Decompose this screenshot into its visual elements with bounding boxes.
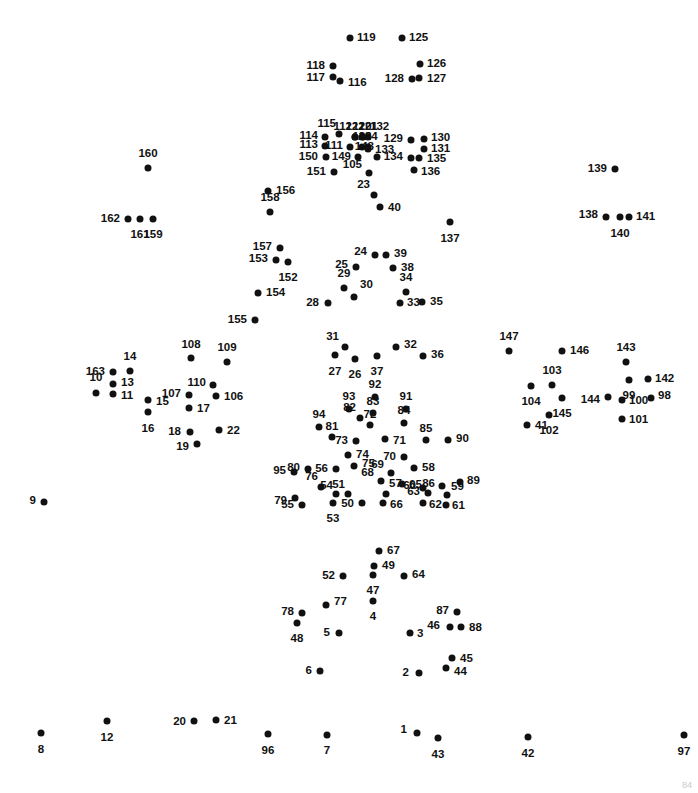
dot-marker-49 — [371, 563, 378, 570]
dot-marker-35 — [419, 299, 426, 306]
dot-marker-63 — [425, 490, 432, 497]
dot-label-117: 117 — [306, 72, 325, 84]
dot-marker-138 — [603, 214, 610, 221]
dot-marker-140 — [617, 214, 624, 221]
dot-marker-130 — [421, 136, 428, 143]
dot-label-102: 102 — [539, 425, 558, 437]
dot-marker-81 — [329, 434, 336, 441]
dot-marker-142 — [645, 376, 652, 383]
dot-label-116: 116 — [348, 77, 367, 89]
dot-marker-80 — [305, 466, 312, 473]
dot-label-2: 2 — [403, 667, 409, 679]
dot-marker-4 — [370, 598, 377, 605]
dot-marker-69 — [388, 470, 395, 477]
dot-marker-144 — [605, 394, 612, 401]
dot-marker-18 — [187, 429, 194, 436]
dot-label-89: 89 — [467, 475, 480, 487]
dot-label-16: 16 — [142, 423, 155, 435]
dot-label-138: 138 — [579, 209, 598, 221]
dot-marker-161 — [137, 216, 144, 223]
dot-label-96: 96 — [262, 745, 275, 757]
dot-marker-51 — [345, 491, 352, 498]
dot-marker-68 — [378, 478, 385, 485]
dot-marker-154 — [255, 290, 262, 297]
dot-marker-7 — [324, 732, 331, 739]
dot-label-128: 128 — [385, 73, 404, 85]
dot-label-141: 141 — [636, 211, 655, 223]
dot-label-53: 53 — [327, 513, 340, 525]
dot-marker-90 — [445, 437, 452, 444]
dot-marker-104 — [528, 383, 535, 390]
dot-marker-45 — [449, 655, 456, 662]
dot-label-71: 71 — [393, 435, 406, 447]
dot-marker-126 — [417, 61, 424, 68]
dot-marker-147 — [506, 348, 513, 355]
dot-marker-94 — [316, 424, 323, 431]
dot-marker-20 — [191, 718, 198, 725]
dot-label-66: 66 — [390, 499, 403, 511]
dot-label-73: 73 — [335, 435, 348, 447]
dot-label-58: 58 — [422, 462, 435, 474]
dot-marker-136 — [411, 167, 418, 174]
dot-label-75: 75 — [362, 458, 375, 470]
dot-marker-91 — [403, 406, 410, 413]
dot-marker-159 — [150, 216, 157, 223]
dot-label-134: 134 — [384, 151, 403, 163]
dot-label-61: 61 — [452, 500, 465, 512]
dot-marker-74 — [345, 452, 352, 459]
dot-label-6: 6 — [306, 665, 312, 677]
dot-marker-103 — [549, 382, 556, 389]
dot-marker-152 — [285, 259, 292, 266]
dot-marker-15 — [145, 397, 152, 404]
dot-label-18: 18 — [168, 426, 181, 438]
dot-marker-38 — [390, 265, 397, 272]
dot-label-21: 21 — [224, 715, 237, 727]
dot-marker-92 — [372, 394, 379, 401]
dot-label-150: 150 — [299, 151, 318, 163]
dot-marker-76 — [318, 484, 325, 491]
dot-label-114: 114 — [299, 130, 318, 142]
dot-label-64: 64 — [412, 569, 425, 581]
dot-label-52: 52 — [322, 570, 335, 582]
dot-marker-26 — [352, 356, 359, 363]
dot-label-70: 70 — [383, 451, 396, 463]
dot-marker-100 — [619, 397, 626, 404]
dot-marker-19 — [194, 441, 201, 448]
dot-marker-43 — [435, 735, 442, 742]
dot-label-26: 26 — [349, 369, 362, 381]
dot-marker-129 — [408, 137, 415, 144]
dot-marker-71 — [382, 436, 389, 443]
dot-label-36: 36 — [431, 349, 444, 361]
dot-label-46: 46 — [427, 620, 440, 632]
dot-label-42: 42 — [522, 748, 535, 760]
dot-marker-29 — [341, 285, 348, 292]
dot-label-103: 103 — [542, 365, 561, 377]
dot-marker-24 — [372, 252, 379, 259]
dot-marker-53 — [330, 500, 337, 507]
dot-label-39: 39 — [394, 248, 407, 260]
dot-marker-6 — [317, 668, 324, 675]
dot-marker-55 — [299, 502, 306, 509]
dot-marker-155 — [252, 317, 259, 324]
dot-label-107: 107 — [162, 388, 181, 400]
dot-label-119: 119 — [357, 32, 376, 44]
dot-marker-41 — [524, 422, 531, 429]
dot-marker-137 — [447, 219, 454, 226]
dot-label-90: 90 — [456, 433, 469, 445]
dot-marker-40 — [377, 204, 384, 211]
dot-label-62: 62 — [429, 499, 442, 511]
dot-label-151: 151 — [307, 166, 326, 178]
dot-label-65: 65 — [409, 479, 422, 491]
dot-marker-39 — [383, 252, 390, 259]
dot-marker-93 — [346, 406, 353, 413]
dot-marker-36 — [420, 353, 427, 360]
dot-marker-101 — [619, 416, 626, 423]
dot-marker-160 — [145, 165, 152, 172]
dot-label-108: 108 — [181, 339, 200, 351]
dot-label-137: 137 — [440, 233, 459, 245]
dot-label-78: 78 — [281, 606, 294, 618]
dot-label-95: 95 — [273, 465, 286, 477]
dot-label-51: 51 — [332, 479, 345, 491]
dot-marker-65 — [399, 481, 406, 488]
dot-label-127: 127 — [427, 73, 446, 85]
